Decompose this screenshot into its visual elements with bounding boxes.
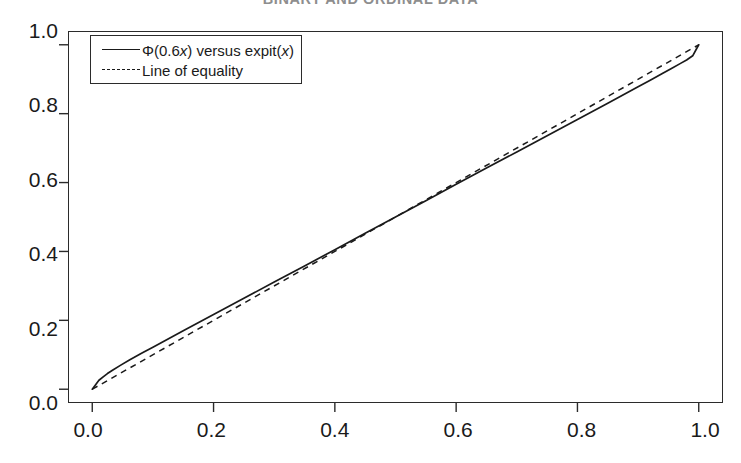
dashed-line-key [100, 63, 142, 77]
legend-box: Φ(0.6x) versus expit(x) Line of equality [90, 35, 302, 84]
x-tick-label-1: 0.2 [181, 418, 241, 442]
y-tick-label-2: 0.4 [6, 242, 58, 266]
y-tick-label-3: 0.6 [6, 168, 58, 192]
legend-label-1: Line of equality [142, 63, 243, 78]
y-tick-label-1: 0.2 [6, 317, 58, 341]
x-tick-label-4: 0.8 [552, 418, 612, 442]
y-tick-label-4: 0.8 [6, 93, 58, 117]
figure-container: BINARY AND ORDINAL DATA 0.0 0.2 0.4 0.6 … [0, 0, 741, 463]
y-tick-label-0: 0.0 [6, 391, 58, 415]
legend-label-0: Φ(0.6x) versus expit(x) [142, 43, 294, 58]
x-tick-label-3: 0.6 [428, 418, 488, 442]
y-axis-tick-labels: 0.0 0.2 0.4 0.6 0.8 1.0 [0, 0, 58, 463]
legend-item-0: Φ(0.6x) versus expit(x) [91, 40, 301, 60]
x-axis-tick-labels: 0.0 0.2 0.4 0.6 0.8 1.0 [0, 418, 741, 448]
legend-item-1: Line of equality [91, 60, 301, 80]
running-header: BINARY AND ORDINAL DATA [0, 0, 741, 5]
solid-line-key [100, 43, 142, 57]
plot-area [68, 31, 723, 403]
x-tick-label-2: 0.4 [305, 418, 365, 442]
x-tick-label-0: 0.0 [58, 418, 118, 442]
y-tick-label-5: 1.0 [6, 19, 58, 43]
x-tick-label-5: 1.0 [675, 418, 735, 442]
